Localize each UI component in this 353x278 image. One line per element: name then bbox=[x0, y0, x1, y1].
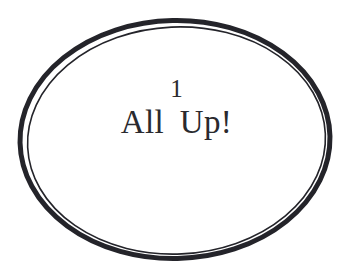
badge-title: All Up! bbox=[0, 105, 353, 139]
badge-label-block: 1 All Up! bbox=[0, 76, 353, 139]
badge-canvas: 1 All Up! bbox=[0, 0, 353, 278]
badge-number: 1 bbox=[0, 76, 353, 102]
